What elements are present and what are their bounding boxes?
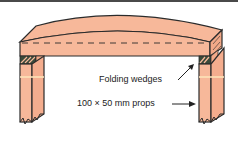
props-label: 100 × 50 mm props [77, 99, 155, 108]
beam-diagram [0, 0, 238, 141]
beam [20, 15, 222, 56]
folding-wedges-label: Folding wedges [99, 75, 162, 84]
left-prop [20, 56, 44, 124]
props-arrow [172, 101, 196, 107]
wedges-arrow [178, 64, 194, 80]
